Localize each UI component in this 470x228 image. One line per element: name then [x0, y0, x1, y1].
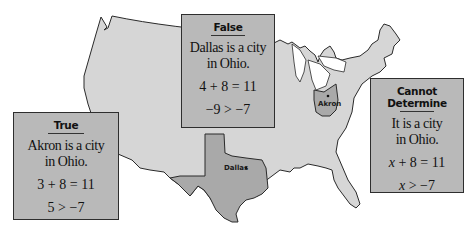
card-statement: Dallas is a city in Ohio. [182, 40, 274, 72]
title-divider [400, 111, 434, 112]
card-cannot-determine: Cannot Determine It is a city in Ohio. x… [370, 78, 464, 193]
statement-line-1: Akron is a city [14, 138, 118, 154]
card-statement: Akron is a city in Ohio. [14, 138, 118, 170]
card-inequality: −9 > −7 [182, 102, 274, 118]
card-equation: 3 + 8 = 11 [14, 177, 118, 193]
card-inequality: 5 > −7 [14, 200, 118, 216]
card-equation: 4 + 8 = 11 [182, 79, 274, 95]
statement-line-2: in Ohio. [371, 132, 463, 148]
akron-label: Akron [318, 100, 341, 108]
title-divider [48, 133, 84, 134]
card-statement: It is a city in Ohio. [371, 116, 463, 148]
card-true: True Akron is a city in Ohio. 3 + 8 = 11… [13, 112, 119, 220]
akron-dot [327, 95, 330, 98]
statement-line-1: Dallas is a city [182, 40, 274, 56]
card-title: False [182, 21, 274, 33]
title-divider [211, 35, 245, 36]
dallas-label: Dallas [224, 164, 248, 172]
card-title: True [14, 119, 118, 131]
inequality-rest: > −7 [405, 178, 435, 193]
card-title: Cannot Determine [371, 85, 463, 109]
statement-line-1: It is a city [371, 116, 463, 132]
card-false: False Dallas is a city in Ohio. 4 + 8 = … [181, 14, 275, 128]
statement-line-2: in Ohio. [182, 56, 274, 72]
statement-line-2: in Ohio. [14, 154, 118, 170]
equation-rest: + 8 = 11 [395, 155, 445, 170]
card-equation: x + 8 = 11 [371, 155, 463, 171]
card-inequality: x > −7 [371, 178, 463, 194]
